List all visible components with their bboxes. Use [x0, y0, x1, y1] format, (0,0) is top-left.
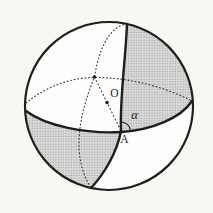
angle-label-alpha: α: [131, 108, 138, 122]
vertex-label-a: A: [120, 133, 129, 145]
back-intersection-dot: [93, 75, 97, 79]
sphere-lune-diagram: O A α: [0, 0, 213, 213]
center-point-dot: [105, 101, 109, 105]
diagram-canvas: O A α: [0, 0, 213, 213]
center-label-o: O: [110, 87, 118, 99]
